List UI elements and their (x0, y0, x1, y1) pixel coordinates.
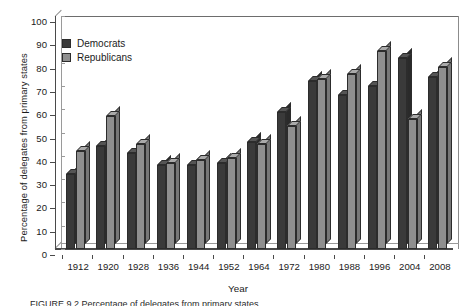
bar-group-1944 (187, 16, 211, 249)
bar-face (217, 163, 226, 249)
bar-group-1952 (217, 16, 241, 249)
bar-side (386, 41, 391, 244)
bar-republicans-2004 (408, 119, 417, 249)
x-tick-1980 (304, 255, 305, 259)
x-axis-title: Year (0, 283, 476, 294)
y-tick-70 (50, 92, 55, 93)
legend-swatch-republicans (62, 53, 71, 62)
x-tick-label-1988: 1988 (339, 262, 360, 272)
frame-right-border (458, 16, 459, 249)
bar-face (76, 151, 85, 249)
bar-face (257, 144, 266, 249)
y-tick-90 (50, 45, 55, 46)
y-tick-label-30: 30 (36, 180, 47, 190)
x-tick-1920 (92, 255, 93, 259)
bar-face (66, 174, 75, 249)
bar-republicans-2008 (438, 67, 447, 249)
x-tick-1928 (123, 255, 124, 259)
bar-side (417, 109, 422, 244)
y-tick-label-100: 100 (31, 17, 47, 27)
x-tick-label-2008: 2008 (429, 262, 450, 272)
bar-republicans-1988 (347, 74, 356, 249)
bar-side (326, 69, 331, 244)
y-tick-label-60: 60 (36, 110, 47, 120)
x-tick-2008 (424, 255, 425, 259)
legend-label-democrats: Democrats (77, 38, 125, 49)
y-tick-label-10: 10 (36, 227, 47, 237)
bar-group-1936 (157, 16, 181, 249)
bar-democrats-1936 (157, 165, 166, 249)
bar-republicans-1972 (287, 126, 296, 249)
x-tick-label-1936: 1936 (158, 262, 179, 272)
x-tick-label-1952: 1952 (218, 262, 239, 272)
x-tick-label-1964: 1964 (248, 262, 269, 272)
x-tick-1912 (62, 255, 63, 259)
y-tick-40 (50, 162, 55, 163)
bar-side (236, 148, 241, 244)
bar-democrats-1928 (127, 153, 136, 249)
bar-democrats-1972 (277, 112, 286, 249)
bar-face (347, 74, 356, 249)
y-tick-label-80: 80 (36, 64, 47, 74)
x-tick-label-1996: 1996 (369, 262, 390, 272)
y-tick-label-70: 70 (36, 87, 47, 97)
bar-democrats-2008 (428, 77, 437, 249)
bar-group-2008 (428, 16, 452, 249)
bar-face (157, 165, 166, 249)
bar-face (287, 126, 296, 249)
y-tick-0 (50, 255, 55, 256)
bar-democrats-2004 (398, 58, 407, 249)
bar-side (447, 57, 452, 244)
bar-republicans-1920 (106, 116, 115, 249)
bar-side (266, 134, 271, 244)
y-tick-50 (50, 139, 55, 140)
y-axis-title: Percentage of delegates from primary sta… (18, 33, 29, 263)
x-tick-label-1980: 1980 (309, 262, 330, 272)
bar-face (408, 119, 417, 249)
bar-republicans-1952 (227, 158, 236, 249)
chart-figure: Percentage of delegates from primary sta… (0, 0, 476, 306)
y-tick-60 (50, 115, 55, 116)
bar-side (205, 150, 210, 244)
y-tick-100 (50, 22, 55, 23)
bar-face (127, 153, 136, 249)
bar-face (438, 67, 447, 249)
bar-face (227, 158, 236, 249)
bar-face (136, 144, 145, 249)
bar-face (166, 163, 175, 249)
x-tick-1952 (213, 255, 214, 259)
bar-face (317, 79, 326, 249)
legend-item-democrats: Democrats (62, 36, 132, 50)
legend-label-republicans: Republicans (77, 52, 132, 63)
bar-face (368, 86, 377, 249)
x-tick-label-1928: 1928 (128, 262, 149, 272)
y-tick-label-90: 90 (36, 41, 47, 51)
bar-republicans-1936 (166, 163, 175, 249)
bar-face (308, 81, 317, 249)
x-tick-1972 (273, 255, 274, 259)
bar-side (115, 106, 120, 244)
legend-swatch-democrats (62, 39, 71, 48)
bar-group-1972 (277, 16, 301, 249)
bar-side (356, 64, 361, 244)
bar-face (187, 165, 196, 249)
y-tick-label-0: 0 (42, 250, 47, 260)
y-axis-front-line (55, 16, 56, 249)
bar-face (338, 95, 347, 249)
x-tick-label-1920: 1920 (98, 262, 119, 272)
bar-face (106, 116, 115, 249)
x-tick-2004 (394, 255, 395, 259)
bar-democrats-1964 (247, 142, 256, 249)
bar-democrats-1996 (368, 86, 377, 249)
bar-group-1964 (247, 16, 271, 249)
bar-republicans-1964 (257, 144, 266, 249)
x-tick-1944 (183, 255, 184, 259)
y-tick-80 (50, 69, 55, 70)
bar-democrats-1980 (308, 81, 317, 249)
legend-item-republicans: Republicans (62, 50, 132, 64)
bar-side (85, 141, 90, 244)
bar-republicans-1996 (377, 51, 386, 249)
x-tick-label-1972: 1972 (278, 262, 299, 272)
y-tick-30 (50, 185, 55, 186)
bar-face (398, 58, 407, 249)
